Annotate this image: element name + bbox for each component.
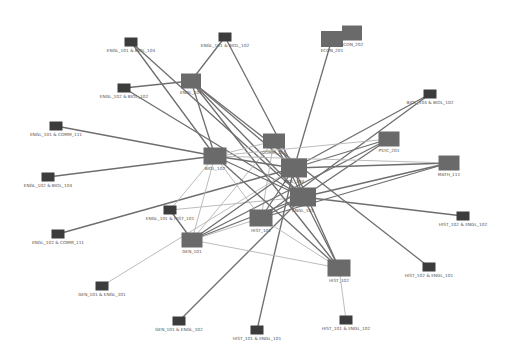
node-box[interactable] (457, 212, 470, 221)
node-biol_102[interactable]: BIOL_102 (204, 148, 227, 172)
node-box[interactable] (423, 263, 436, 272)
node-box[interactable] (281, 159, 307, 178)
network-graph: ENGL_101 & BIOL_104ENGL_101 & BIOL_102EN… (0, 0, 508, 351)
node-box[interactable] (290, 188, 316, 207)
node-comm_111[interactable]: COMM_111 (262, 134, 286, 156)
node-box[interactable] (118, 84, 131, 93)
node-box[interactable] (182, 233, 203, 248)
node-engl_101[interactable]: ENGL_101 (180, 74, 202, 96)
node-box[interactable] (204, 148, 227, 165)
node-box[interactable] (181, 74, 201, 89)
node-gen_101[interactable]: GEN_101 (182, 233, 203, 255)
node-box[interactable] (250, 210, 273, 227)
node-box[interactable] (96, 282, 109, 291)
node-econ_202[interactable]: ECON_202 (341, 26, 364, 48)
node-hist_101[interactable]: HIST_101 (250, 210, 273, 234)
node-biol_104[interactable]: BIOL_104 (281, 159, 307, 185)
node-box[interactable] (439, 156, 460, 171)
node-psyc_201[interactable]: PSYC_201 (378, 132, 399, 154)
node-box[interactable] (164, 206, 177, 215)
node-box[interactable] (42, 173, 55, 182)
node-box[interactable] (340, 316, 353, 325)
node-box[interactable] (263, 134, 285, 149)
node-box[interactable] (219, 33, 232, 42)
node-box[interactable] (50, 122, 63, 131)
node-box[interactable] (379, 132, 400, 147)
canvas-background (0, 0, 508, 351)
node-box[interactable] (52, 230, 65, 239)
node-box[interactable] (342, 26, 362, 41)
node-box[interactable] (251, 326, 264, 335)
node-math_111[interactable]: MATH_111 (438, 156, 461, 178)
node-engl_102[interactable]: ENGL_102 (290, 188, 316, 214)
node-box[interactable] (424, 90, 437, 99)
node-box[interactable] (173, 317, 186, 326)
node-box[interactable] (328, 260, 351, 277)
node-hist_102[interactable]: HIST_102 (328, 260, 351, 284)
node-box[interactable] (125, 38, 138, 47)
